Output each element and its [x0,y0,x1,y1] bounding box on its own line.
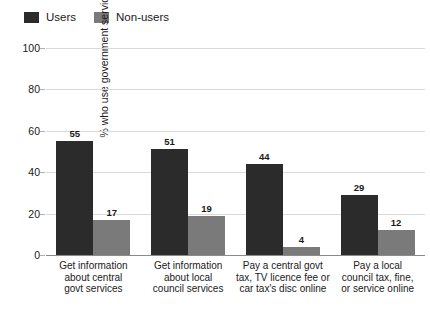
x-axis-label: Get informationabout localcouncil servic… [141,260,236,295]
x-axis-label-line: tax, TV licence fee or [236,272,331,284]
x-axis-label-line: about local [141,272,236,284]
x-axis-label-line: govt services [46,283,141,295]
x-axis-label-line: council services [141,283,236,295]
y-tick-mark-20 [40,214,45,215]
y-tick-label-60: 60 [6,126,40,137]
bar-group: 5517 [56,48,130,255]
legend-item-users: Users [24,11,76,23]
bar-group: 5119 [151,48,225,255]
x-axis-label-line: or service online [330,283,425,295]
y-tick-label-20: 20 [6,209,40,220]
bar-value-label: 19 [201,203,212,214]
x-axis-label: Get informationabout centralgovt service… [46,260,141,295]
bar-value-label: 4 [299,234,304,245]
y-tick-mark-100 [40,48,45,49]
y-axis-ticks: 020406080100 [0,48,40,255]
x-axis-category-labels: Get informationabout centralgovt service… [46,260,425,306]
y-tick-mark-60 [40,131,45,132]
bar-non-users[interactable]: 4 [283,247,320,255]
legend-swatch-users [24,12,39,23]
legend-label-non-users: Non-users [116,11,169,23]
bar-value-label: 44 [259,151,270,162]
bar-users[interactable]: 29 [341,195,378,255]
x-axis-label-line: Pay a local [330,260,425,272]
plot-area: 551751194442912 [46,48,425,255]
y-tick-label-80: 80 [6,84,40,95]
y-tick-mark-80 [40,89,45,90]
x-axis-label-line: Pay a central govt [236,260,331,272]
x-axis-label: Pay a localcouncil tax, fine,or service … [330,260,425,295]
bar-group: 444 [246,48,320,255]
bar-value-label: 55 [70,128,81,139]
y-tick-label-0: 0 [6,250,40,261]
x-axis-label-line: Get information [46,260,141,272]
bar-group: 2912 [341,48,415,255]
x-axis-label-line: council tax, fine, [330,272,425,284]
y-tick-mark-0 [40,255,45,256]
bar-users[interactable]: 44 [246,164,283,255]
x-axis-label-line: about central [46,272,141,284]
gridline-0 [46,255,425,256]
bar-value-label: 51 [164,136,175,147]
bar-users[interactable]: 55 [56,141,93,255]
bar-value-label: 17 [107,207,118,218]
bar-value-label: 29 [354,182,365,193]
bar-chart: Users Non-users % who use government ser… [0,0,430,311]
bar-non-users[interactable]: 17 [93,220,130,255]
bar-users[interactable]: 51 [151,149,188,255]
y-tick-label-100: 100 [6,43,40,54]
y-tick-label-40: 40 [6,167,40,178]
x-axis-label: Pay a central govttax, TV licence fee or… [236,260,331,295]
bar-non-users[interactable]: 19 [188,216,225,255]
legend-label-users: Users [46,11,76,23]
y-tick-mark-40 [40,172,45,173]
bar-non-users[interactable]: 12 [378,230,415,255]
bar-value-label: 12 [391,217,402,228]
x-axis-label-line: Get information [141,260,236,272]
x-axis-label-line: car tax's disc online [236,283,331,295]
